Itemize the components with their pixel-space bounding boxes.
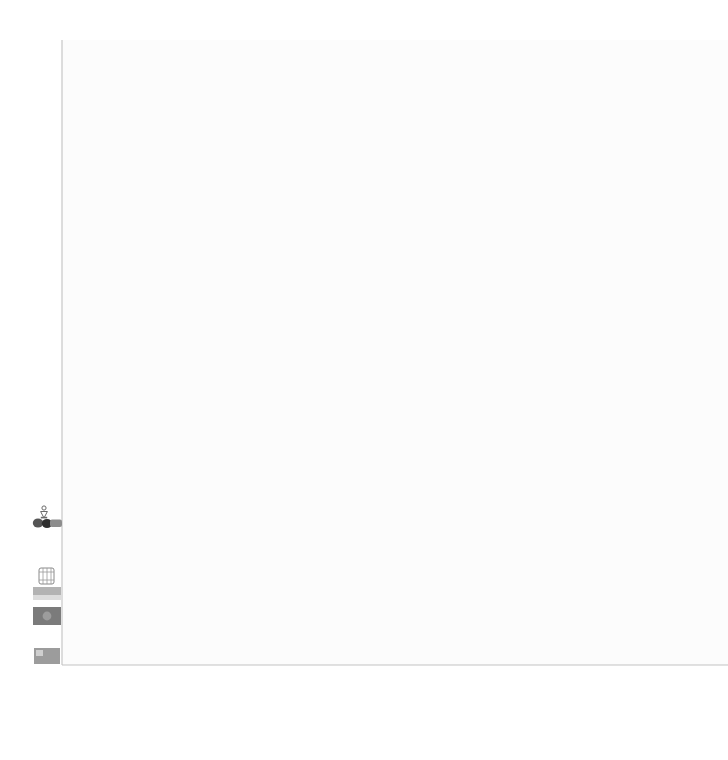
energy-timeline-chart [0, 0, 728, 760]
oil-barrel-dots-glyph [33, 518, 62, 528]
grey-swatch-glyph [33, 587, 61, 600]
bottom-swatch-glyph [34, 648, 60, 664]
dark-swatch-glyph [33, 607, 61, 625]
plot-area-fill [62, 40, 728, 665]
chart-canvas [0, 0, 728, 760]
